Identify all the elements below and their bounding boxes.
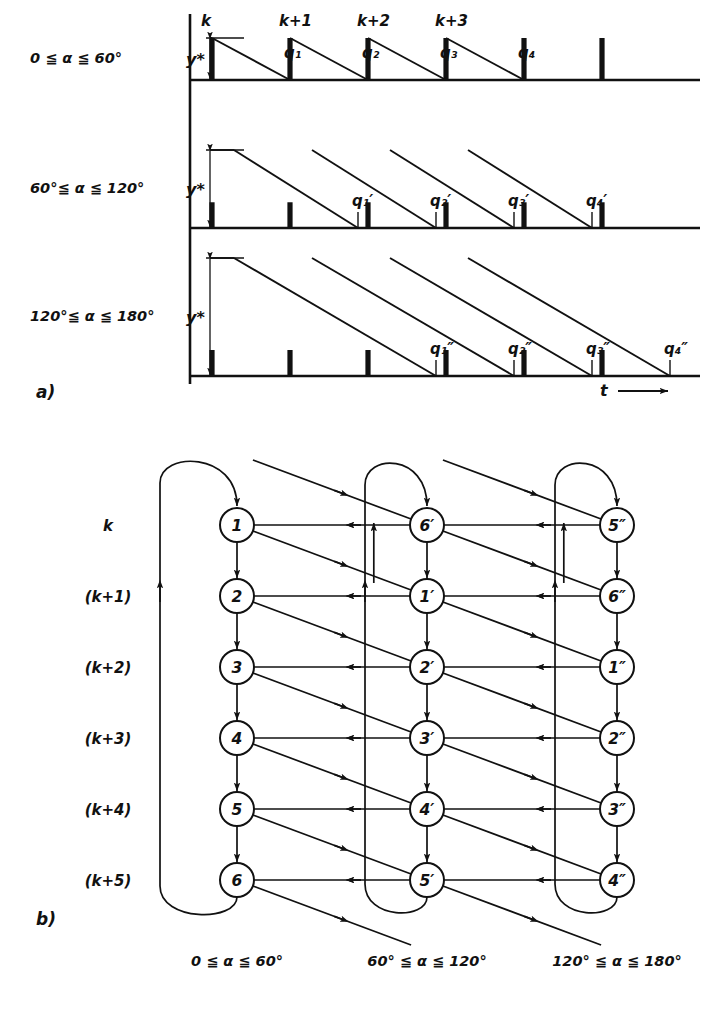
q-label-0-1: q₂ [362,44,380,62]
row-label-2: (k+2) [85,659,132,677]
time-axis-label: t [600,381,609,400]
state-node[interactable]: 4 [220,721,254,755]
waveform-row-1: 60°≦ α ≦ 120°y*q₁′q₂′q₃′q₄′ [30,150,700,228]
edge-arrowhead [524,845,534,849]
edge-arrowhead [334,845,344,849]
range-label-2: 120°≦ α ≦ 180° [30,308,154,324]
state-node[interactable]: 6′ [410,508,444,542]
pulse-bar [365,350,370,376]
waveform-row-0: 0 ≦ α ≦ 60°y*q₁kq₂k+1q₃k+2q₄k+3 [30,12,700,80]
column-caption-1: 60° ≦ α ≦ 120° [367,953,486,969]
edge-diagonal [253,531,411,590]
node-label: 4″ [607,872,626,890]
state-node[interactable]: 2 [220,579,254,613]
edge-arrowhead [334,561,344,565]
state-node[interactable]: 5″ [600,508,634,542]
edge-diagonal [253,602,411,661]
state-node[interactable]: 6 [220,863,254,897]
state-node[interactable]: 3 [220,650,254,684]
edge-arrowhead [524,561,534,565]
pulse-label-3: k+3 [435,12,468,30]
row-label-4: (k+4) [85,801,132,819]
pulse-bar [521,350,526,376]
edge-diagonal [443,673,601,732]
state-node[interactable]: 2′ [410,650,444,684]
node-label: 2″ [608,730,626,748]
pulse-label-1: k+1 [279,12,312,30]
state-node[interactable]: 4′ [410,792,444,826]
panel-b-state-diagram: k(k+1)(k+2)(k+3)(k+4)(k+5)0 ≦ α ≦ 60°60°… [85,460,682,969]
q-label-0-3: q₄ [518,44,535,62]
edge-diagonal [253,815,411,874]
state-node[interactable]: 5 [220,792,254,826]
q-label-2-3: q₄″ [664,340,688,358]
edge-arrowhead [524,703,534,707]
ramp-line [290,38,368,80]
panel-b-tag: b) [36,909,56,929]
pulse-label-0: k [201,12,212,30]
pulse-bar [443,350,448,376]
edge-diagonal [443,531,601,590]
pulse-bar [209,38,214,80]
range-label-0: 0 ≦ α ≦ 60° [30,50,122,66]
ramp-line [390,258,592,376]
pulse-label-2: k+2 [357,12,390,30]
q-label-0-0: q₁ [284,44,301,62]
pulse-bar [209,202,214,228]
edge-arrowhead [334,916,344,920]
state-node[interactable]: 6″ [600,579,634,613]
pulse-bar [443,38,448,80]
column-caption-0: 0 ≦ α ≦ 60° [191,953,283,969]
edge-diagonal [443,744,601,803]
state-node[interactable]: 5′ [410,863,444,897]
state-node[interactable]: 2″ [600,721,634,755]
node-label: 4′ [419,801,435,819]
state-node[interactable]: 3′ [410,721,444,755]
edge-arrowhead [524,774,534,778]
panel-a-waveforms: 0 ≦ α ≦ 60°y*q₁kq₂k+1q₃k+2q₄k+360°≦ α ≦ … [30,12,700,400]
node-label: 1 [232,517,243,535]
pulse-bar [443,202,448,228]
panel-a-tag: a) [36,382,55,402]
ramp-line [468,150,592,228]
pulse-bar [599,202,604,228]
node-label: 5 [232,801,243,819]
edge-arrowhead [334,632,344,636]
column-caption-2: 120° ≦ α ≦ 180° [552,953,682,969]
edge-diagonal [443,602,601,661]
q-label-2-2: q₃″ [586,340,610,358]
pulse-bar [365,38,370,80]
row-label-1: (k+1) [85,588,132,606]
node-label: 3′ [420,730,435,748]
pulse-bar [521,38,526,80]
node-label: 5′ [420,872,435,890]
edge-arrowhead [524,916,534,920]
state-node[interactable]: 3″ [600,792,634,826]
ramp-line [446,38,524,80]
pulse-bar [599,350,604,376]
q-label-2-0: q₁″ [430,340,454,358]
edge-arrowhead [524,632,534,636]
node-label: 6 [232,872,243,890]
state-node[interactable]: 1′ [410,579,444,613]
node-label: 4 [231,730,243,748]
edge-arrowhead [524,490,534,494]
node-label: 6″ [608,588,626,606]
node-label: 5″ [608,517,626,535]
q-label-2-1: q₂″ [508,340,532,358]
state-node[interactable]: 1 [220,508,254,542]
edge-diagonal [253,744,411,803]
state-node[interactable]: 4″ [600,863,634,897]
node-label: 2′ [420,659,435,677]
ramp-line [468,258,670,376]
ramp-line [312,150,436,228]
waveform-row-2: 120°≦ α ≦ 180°y*q₁″q₂″q₃″q₄″ [30,258,700,376]
edge-diagonal [253,460,411,519]
node-label: 3 [232,659,243,677]
state-node[interactable]: 1″ [600,650,634,684]
node-label: 1′ [420,588,435,606]
row-label-0: k [103,517,114,535]
ramp-line [234,150,358,228]
figure-root: 0 ≦ α ≦ 60°y*q₁kq₂k+1q₃k+2q₄k+360°≦ α ≦ … [0,0,722,1032]
ramp-line [234,258,436,376]
